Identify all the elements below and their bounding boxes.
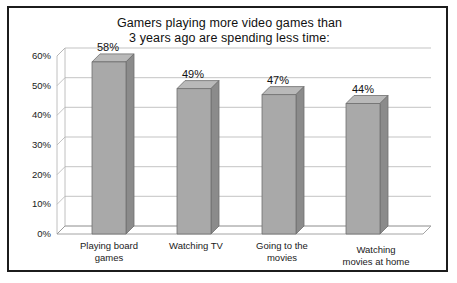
category-label-watching-movies-at-home: Watching movies at home	[321, 244, 431, 267]
value-label-going-to-the-movies: 47%	[267, 74, 289, 86]
bar-front-face	[177, 89, 211, 234]
ytick-label-30: 30%	[17, 140, 51, 150]
ytick-label-40: 40%	[17, 110, 51, 120]
bar-going-to-the-movies[interactable]	[262, 87, 304, 234]
plot-svg	[9, 8, 450, 274]
chart-frame: Gamers playing more video games than 3 y…	[7, 6, 448, 272]
category-label-line: Playing board	[62, 240, 156, 252]
category-label-line: movies	[237, 252, 327, 264]
bar-front-face	[262, 95, 296, 234]
bar-side-face	[380, 96, 388, 235]
value-label-playing-board-games: 58%	[97, 41, 119, 53]
category-label-line: Watching	[321, 244, 431, 256]
plot-area: 60% 50% 40% 30% 20% 10% 0% 58% 49% 47% 4…	[9, 8, 450, 274]
bar-playing-board-games[interactable]	[92, 54, 134, 234]
category-label-playing-board-games: Playing board games	[62, 240, 156, 263]
bar-front-face	[346, 104, 380, 235]
ytick-label-10: 10%	[17, 199, 51, 209]
ytick-label-0: 0%	[17, 229, 51, 239]
category-label-going-to-the-movies: Going to the movies	[237, 240, 327, 263]
ytick-label-20: 20%	[17, 170, 51, 180]
category-label-line: Going to the	[237, 240, 327, 252]
category-label-watching-tv: Watching TV	[153, 240, 239, 252]
category-label-line: Watching TV	[153, 240, 239, 252]
bar-watching-tv[interactable]	[177, 81, 219, 234]
value-label-watching-tv: 49%	[182, 68, 204, 80]
value-label-watching-movies-at-home: 44%	[352, 83, 374, 95]
bar-side-face	[211, 81, 219, 234]
bar-side-face	[126, 54, 134, 234]
category-label-line: movies at home	[321, 256, 431, 268]
chart-screenshot: Gamers playing more video games than 3 y…	[0, 0, 457, 283]
ytick-label-60: 60%	[17, 51, 51, 61]
bar-watching-movies-at-home[interactable]	[346, 96, 388, 235]
ytick-label-50: 50%	[17, 81, 51, 91]
bar-side-face	[296, 87, 304, 234]
category-label-line: games	[62, 252, 156, 264]
bar-front-face	[92, 62, 126, 234]
